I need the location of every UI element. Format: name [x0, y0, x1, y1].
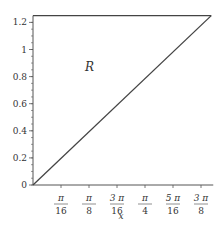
labels: 00.20.40.60.811.2π16π83 π16π45 π163 π8Rx — [13, 17, 210, 221]
y-tick-label: 0.2 — [13, 153, 27, 163]
series-line — [33, 16, 211, 185]
x-tick-numerator: π — [85, 193, 93, 203]
x-axis-title: x — [118, 211, 123, 221]
x-tick-denominator: 16 — [167, 206, 179, 216]
y-tick-label: 0.6 — [13, 99, 28, 109]
y-tick-label: 1 — [21, 45, 27, 55]
x-tick-denominator: 8 — [86, 206, 92, 216]
x-tick-numerator: 3 π — [194, 193, 210, 203]
series-lines — [33, 16, 211, 185]
x-tick-numerator: π — [57, 193, 65, 203]
region-label: R — [84, 60, 94, 74]
x-tick-denominator: 4 — [142, 206, 148, 216]
y-tick-label: 1.2 — [13, 17, 27, 27]
x-tick-numerator: 5 π — [166, 193, 182, 203]
x-tick-numerator: π — [141, 193, 149, 203]
y-tick-label: 0.4 — [13, 126, 28, 136]
x-tick-numerator: 3 π — [110, 193, 126, 203]
x-tick-denominator: 8 — [198, 206, 204, 216]
y-tick-label: 0 — [21, 180, 27, 190]
x-tick-denominator: 16 — [55, 206, 67, 216]
chart-plot: 00.20.40.60.811.2π16π83 π16π45 π163 π8Rx — [0, 0, 222, 231]
y-tick-label: 0.8 — [13, 72, 28, 82]
